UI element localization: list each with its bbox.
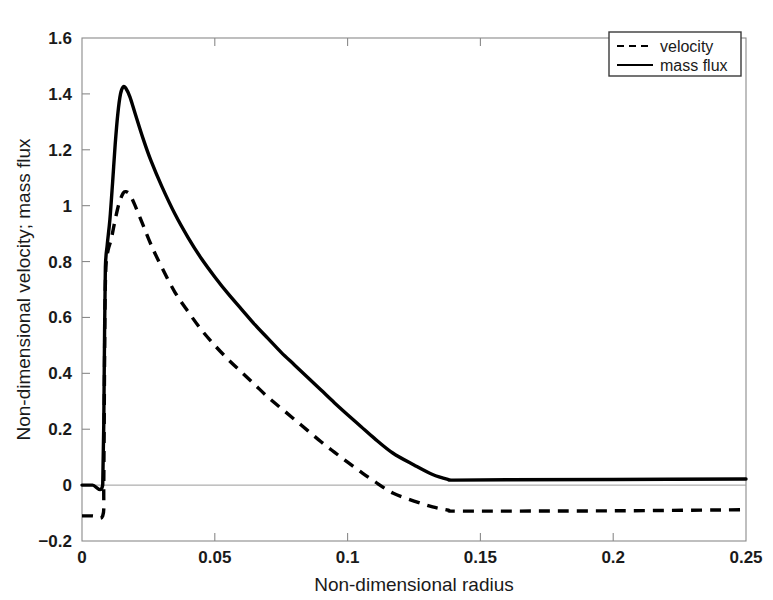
x-tick-label: 0.05 (198, 548, 231, 567)
y-tick-label: 1.6 (48, 29, 72, 48)
y-tick-label: 0.4 (48, 364, 72, 383)
x-tick-label: 0.25 (729, 548, 762, 567)
chart-plot: 00.050.10.150.20.25−0.200.20.40.60.811.2… (0, 0, 773, 600)
axis-labels-layer: 00.050.10.150.20.25−0.200.20.40.60.811.2… (13, 29, 763, 595)
y-tick-label: 0.8 (48, 253, 72, 272)
x-axis-title: Non-dimensional radius (314, 574, 514, 595)
y-tick-label: −0.2 (38, 532, 72, 551)
legend-label-velocity: velocity (660, 38, 713, 55)
y-tick-label: 1.2 (48, 141, 72, 160)
y-tick-label: 0 (63, 476, 72, 495)
x-tick-label: 0 (77, 548, 86, 567)
x-tick-label: 0.2 (601, 548, 625, 567)
series-line-mass-flux (82, 86, 746, 489)
y-tick-label: 1.4 (48, 85, 72, 104)
legend-label-mass-flux: mass flux (660, 57, 728, 74)
x-tick-label: 0.15 (464, 548, 497, 567)
chart-figure: 00.050.10.150.20.25−0.200.20.40.60.811.2… (0, 0, 773, 600)
y-axis-title: Non-dimensional velocity; mass flux (13, 138, 34, 441)
y-tick-label: 0.2 (48, 420, 72, 439)
series-line-velocity (82, 192, 746, 519)
y-tick-label: 0.6 (48, 308, 72, 327)
chart-legend: velocitymass flux (609, 32, 741, 76)
y-tick-label: 1 (63, 197, 72, 216)
series-layer (82, 86, 746, 518)
x-tick-label: 0.1 (336, 548, 360, 567)
